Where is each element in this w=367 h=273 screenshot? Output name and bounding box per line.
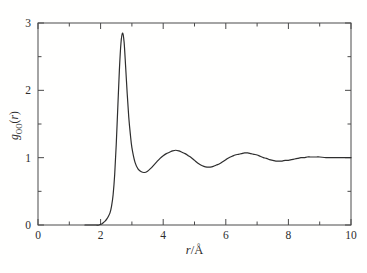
y-axis-argument: r — [8, 115, 20, 119]
x-axis-label: r/Å — [38, 243, 351, 258]
rdf-figure: 02468100123 gOO(r) r/Å — [0, 0, 367, 273]
x-tick-label: 6 — [223, 229, 229, 241]
y-axis-open-paren: ( — [8, 120, 20, 124]
x-tick-label: 8 — [286, 229, 292, 241]
plot-frame — [38, 23, 351, 225]
x-tick-label: 10 — [345, 229, 357, 241]
x-tick-label: 4 — [160, 229, 166, 241]
y-tick-label: 0 — [25, 219, 31, 231]
y-tick-label: 3 — [25, 17, 31, 29]
y-tick-label: 1 — [25, 152, 31, 164]
rdf-plot-svg: 02468100123 — [0, 0, 367, 273]
y-axis-close-paren: ) — [8, 111, 20, 115]
x-axis-unit: Å — [194, 243, 203, 257]
rdf-curve — [85, 33, 351, 225]
x-tick-label: 2 — [98, 229, 104, 241]
y-axis-subscript: OO — [15, 123, 24, 134]
x-tick-label: 0 — [35, 229, 41, 241]
y-axis-quantity: g — [8, 134, 20, 140]
y-axis-label: gOO(r) — [8, 86, 23, 166]
y-tick-label: 2 — [25, 84, 31, 96]
